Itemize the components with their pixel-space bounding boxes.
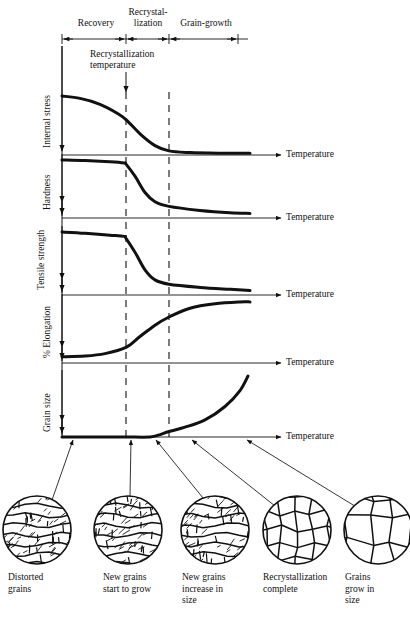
deformation-hatching [186,557,192,563]
grain-boundary [309,476,327,479]
grain-boundary [63,525,64,533]
micrograph-caption-grains-grow: Grains grow in size [345,572,374,607]
grain-boundary [324,592,325,612]
deformation-hatching [62,556,65,558]
grain-boundary [291,482,296,497]
grain-boundary [261,501,267,509]
zone-label-grain-growth: Grain-growth [167,18,245,29]
curve-internal-stress [62,96,250,153]
deformation-hatching [3,505,10,508]
grain-boundary [193,549,194,557]
micrograph-caption-distorted-grains: Distorted grains [8,572,43,595]
axis-label-percent-elongation: % Elongation [42,306,52,358]
deformation-hatching [156,505,163,510]
grain-boundary [243,590,261,591]
grain-boundary [327,479,329,493]
grain-boundary [159,551,160,557]
curve-grain-size [62,376,248,437]
grain-boundary [181,551,182,557]
grain-boundary [224,557,225,563]
deformation-hatching [246,510,250,514]
grain-boundary [345,495,360,499]
grain-boundary [310,595,314,609]
grain-boundary [69,532,70,538]
micrograph-circle-distorted-grains [3,496,71,564]
leader-line-new-grains-start [130,440,131,496]
grain-boundary [344,540,347,563]
grain-boundary [30,513,31,519]
deformation-hatching [69,554,72,557]
grain-boundary [281,478,291,482]
grain-boundary [317,564,339,566]
grain-boundary [386,563,396,584]
x-axis-label-percent-elongation: Temperature [286,357,334,367]
axis-label-tensile-strength: Tensile strength [36,230,47,290]
grain-boundary [312,493,329,495]
deformation-hatching [67,549,71,552]
grain-boundary [327,479,344,481]
deformation-hatching [63,495,69,499]
grain-boundary [245,573,259,578]
grain-boundary [359,482,374,483]
curve-tensile-strength [62,232,250,291]
grain-boundary [249,509,261,513]
grain-boundary [244,502,246,508]
grain-boundary [245,545,268,546]
grain-boundary [243,578,245,591]
grain-boundary [10,498,12,507]
x-axis-label-hardness: Temperature [286,212,334,222]
grain-boundary [150,560,152,567]
grain-boundary [151,531,152,539]
grain-boundary [37,547,38,553]
grain-boundary [325,584,345,592]
grain-boundary [248,481,264,482]
deformation-hatching [239,502,245,505]
grain-boundary [245,545,249,559]
grain-boundary [384,469,410,480]
grain-boundary [386,582,410,584]
grain-boundary [206,553,207,562]
grain-boundary [267,498,277,501]
recrystallization-figure: Recovery Recrystal- lization Grain-growt… [0,0,410,622]
grain-boundary [67,492,69,500]
grain-boundary [259,558,265,573]
grain-boundary [384,469,390,500]
grain-boundary [395,563,408,565]
grain-boundary [339,567,370,569]
grain-boundary [291,594,297,607]
x-axis-label-tensile-strength: Temperature [286,289,334,299]
deformation-hatching [185,550,190,557]
grain-boundary [331,508,344,510]
grain-boundary [248,495,249,513]
micrograph-circle-grains-grow [344,496,410,564]
grain-boundary [328,562,344,564]
grain-boundary [386,584,396,610]
grain-boundary [291,476,309,482]
deformation-hatching [69,499,73,502]
grain-boundary [277,478,280,498]
micrograph-caption-new-grains-start: New grains start to grow [103,572,151,595]
grain-boundary [331,540,347,546]
grain-boundary [211,558,212,566]
grain-boundary [344,493,349,514]
deformation-hatching [10,560,14,562]
grain-boundary [343,481,344,499]
grain-boundary [326,575,345,576]
grain-boundary [260,590,261,610]
grain-boundary [408,548,409,566]
grain-boundary [248,558,265,559]
grain-boundary [259,573,261,590]
micrograph-caption-new-grains-increase: New grains increase in size [182,572,226,607]
grain-boundary [322,470,349,478]
grain-boundary [329,493,332,508]
grain-boundary [328,595,329,611]
axis-label-internal-stress: Internal stress [42,95,52,148]
grain-boundary [63,557,64,564]
x-axis-label-grain-size: Temperature [286,431,334,441]
x-axis-label-internal-stress: Temperature [286,149,334,159]
grain-boundary [315,470,322,491]
grain-boundary [265,558,278,561]
grain-boundary [243,591,248,606]
grain-boundary [344,499,345,510]
figure-artwork [0,0,410,622]
